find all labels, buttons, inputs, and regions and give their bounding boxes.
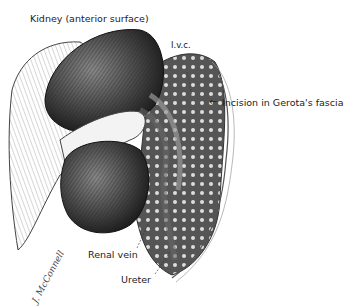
- label-ureter: Ureter: [121, 275, 151, 285]
- label-incision: Incision in Gerota's fascia: [222, 98, 343, 108]
- label-renal-vein: Renal vein: [88, 250, 138, 260]
- anatomical-illustration: Kidney (anterior surface) I.v.c. ← Incis…: [0, 0, 350, 306]
- incision-arrow-icon: ←: [209, 97, 217, 107]
- label-kidney: Kidney (anterior surface): [30, 14, 149, 24]
- label-ivc: I.v.c.: [171, 41, 191, 50]
